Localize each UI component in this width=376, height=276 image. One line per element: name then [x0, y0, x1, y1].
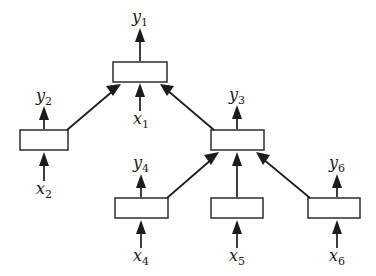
- label-x6: x6: [329, 246, 345, 268]
- label-x1: x1: [133, 109, 149, 131]
- input-arrow-x4: [136, 220, 146, 248]
- output-arrow-y6: [332, 174, 342, 197]
- label-y1: y1: [131, 7, 148, 29]
- block-2[interactable]: [20, 130, 68, 150]
- label-y2: y2: [35, 86, 52, 108]
- block-4[interactable]: [115, 198, 168, 218]
- label-x2: x2: [36, 179, 52, 201]
- block-3[interactable]: [211, 130, 264, 150]
- input-arrow-x2: [39, 152, 49, 181]
- label-x5: x5: [229, 246, 245, 268]
- input-arrow-x1: [135, 83, 145, 111]
- output-arrow-y1: [135, 28, 145, 61]
- connection-block3-block1: [160, 84, 214, 130]
- label-y4: y4: [132, 153, 149, 175]
- label-y6: y6: [328, 153, 345, 175]
- connection-block6-block3: [256, 152, 310, 198]
- label-x4: x4: [133, 246, 149, 268]
- connection-block5-block3: [232, 152, 242, 197]
- output-arrow-y3: [232, 105, 242, 129]
- connection-block4-block3: [167, 152, 219, 198]
- diagram-svg: y1 y2 y3 y4 y6 x1 x2 x4 x5 x6: [0, 0, 376, 276]
- label-y3: y3: [228, 85, 245, 107]
- output-arrow-y4: [136, 174, 146, 197]
- block-6[interactable]: [308, 198, 360, 218]
- diagram-canvas: y1 y2 y3 y4 y6 x1 x2 x4 x5 x6: [0, 0, 376, 276]
- input-arrow-x5: [232, 220, 242, 248]
- block-5[interactable]: [211, 198, 263, 218]
- output-arrow-y2: [39, 106, 49, 129]
- input-arrow-x6: [332, 220, 342, 248]
- block-1[interactable]: [113, 62, 167, 82]
- connection-block2-block1: [67, 84, 121, 130]
